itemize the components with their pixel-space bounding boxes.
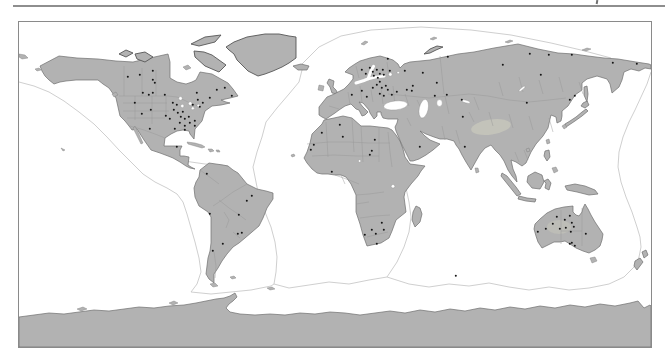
wrangel-island — [19, 54, 28, 59]
sri-lanka — [475, 168, 479, 173]
aral-sea — [437, 100, 443, 107]
ellesmere-island — [191, 35, 221, 46]
sumatra — [501, 173, 521, 196]
banks-island — [119, 50, 133, 57]
south-america — [194, 163, 273, 283]
lake-victoria — [391, 185, 395, 189]
page — [0, 0, 667, 362]
world-map-figure — [18, 21, 652, 348]
luzon-philippines — [544, 150, 550, 161]
mindanao — [552, 167, 558, 173]
lake-superior — [179, 97, 183, 101]
lake-chad — [358, 160, 361, 163]
great-britain — [327, 79, 338, 94]
iceland — [293, 64, 309, 70]
lake-erie — [191, 107, 194, 110]
australian-desert — [547, 220, 571, 234]
taiwan — [546, 139, 550, 144]
lake-onega — [397, 71, 399, 73]
madagascar — [412, 206, 422, 227]
antarctica — [19, 293, 651, 347]
cuba — [187, 142, 205, 148]
new-guinea — [565, 184, 598, 195]
puerto-rico — [216, 150, 220, 152]
st-lawrence-island — [35, 68, 41, 71]
baffin-island — [194, 51, 226, 72]
svalbard — [361, 41, 368, 45]
world-map — [19, 22, 651, 347]
southampton-island — [183, 65, 191, 70]
java — [518, 196, 536, 202]
sakhalin — [584, 86, 588, 102]
tierra-del-fuego — [210, 283, 218, 287]
new-zealand-north — [642, 250, 648, 258]
landmasses — [19, 34, 651, 347]
stray-mark — [596, 0, 598, 4]
hawaii — [61, 148, 65, 151]
ireland — [318, 85, 324, 91]
lake-ladoga — [389, 73, 393, 77]
lake-michigan — [181, 104, 184, 107]
franz-josef-land — [430, 37, 437, 40]
severnaya-zemlya — [505, 40, 513, 43]
sulawesi — [544, 179, 551, 190]
hispaniola — [208, 149, 214, 152]
top-rule — [13, 5, 665, 7]
lake-ontario — [197, 104, 200, 107]
hokkaido — [581, 101, 589, 108]
falklands — [230, 276, 236, 279]
greenland — [226, 34, 296, 76]
tasmania — [590, 257, 597, 263]
hainan — [526, 148, 530, 152]
lake-huron — [188, 102, 192, 106]
honshu-japan — [565, 109, 588, 127]
new-zealand-south — [634, 258, 643, 270]
novaya-zemlya — [424, 46, 443, 54]
cape-verde — [291, 154, 295, 157]
borneo — [527, 172, 544, 189]
north-america — [40, 54, 238, 169]
